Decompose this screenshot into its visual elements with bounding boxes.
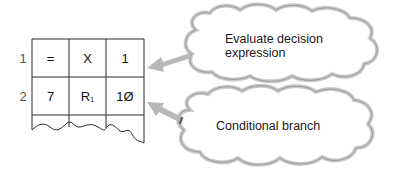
row-label-2: 2	[17, 89, 29, 104]
torn-edge	[32, 122, 144, 143]
callout-conditional-line1: Conditional branch	[216, 119, 320, 133]
callout-evaluate-text: Evaluate decision expression	[225, 32, 323, 60]
cell-r1-c3: 1	[106, 51, 144, 66]
cell-r2-c1: 7	[32, 89, 69, 104]
row-label-1: 1	[17, 51, 29, 66]
cell-r1-c2: X	[69, 51, 106, 66]
arrow-to-row-2	[147, 102, 184, 124]
register-letter: R	[81, 89, 90, 104]
cell-r2-c2: R1	[69, 89, 106, 104]
callout-conditional-text: Conditional branch	[216, 119, 320, 133]
diagram-canvas	[0, 0, 393, 172]
register-subscript: 1	[90, 96, 94, 103]
cell-r1-c1: =	[32, 51, 69, 66]
cell-r2-c3: 1Ø	[106, 89, 144, 104]
callout-evaluate-line2: expression	[225, 46, 323, 60]
arrow-to-row-1	[147, 53, 191, 72]
callout-evaluate-line1: Evaluate decision	[225, 32, 323, 46]
